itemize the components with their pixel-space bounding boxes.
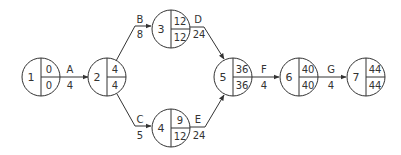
node-4-id: 4 (158, 122, 165, 135)
node-5-id: 5 (220, 71, 227, 84)
node-4: 4 9 12 (152, 109, 190, 147)
node-1-bottom-value: 0 (46, 80, 52, 91)
node-2: 2 4 4 (88, 58, 126, 96)
edge-f-label: F (261, 64, 267, 75)
node-2-id: 2 (94, 71, 101, 84)
node-5-bottom-value: 36 (236, 80, 249, 91)
node-6: 6 40 40 (280, 58, 318, 96)
edge-g-duration: 4 (328, 80, 334, 91)
edge-c-duration: 5 (137, 130, 143, 141)
edge-b-label: B (137, 14, 144, 25)
node-5-top-value: 36 (236, 64, 249, 75)
node-1: 1 0 0 (22, 58, 60, 96)
edge-a-duration: 4 (67, 80, 73, 91)
node-7-top-value: 44 (369, 64, 382, 75)
node-4-top-value: 9 (177, 115, 183, 126)
node-2-top-value: 4 (112, 64, 118, 75)
node-1-id: 1 (28, 71, 35, 84)
edge-c-arrow (117, 94, 151, 126)
edge-d-label: D (194, 14, 202, 25)
node-3: 3 12 12 (152, 10, 190, 48)
edge-b-arrow (116, 26, 151, 61)
network-diagram: A 4 B 8 C 5 D 24 E 24 F 4 G 4 1 0 0 2 4 … (0, 0, 401, 155)
edge-b-duration: 8 (137, 29, 143, 40)
edge-c-label: C (137, 114, 144, 125)
edge-g-label: G (327, 64, 335, 75)
node-6-bottom-value: 40 (302, 80, 315, 91)
node-7: 7 44 44 (347, 58, 385, 96)
node-3-top-value: 12 (174, 16, 187, 27)
node-6-id: 6 (286, 71, 293, 84)
edge-e-duration: 24 (193, 130, 206, 141)
node-3-bottom-value: 12 (174, 32, 187, 43)
edge-f-duration: 4 (261, 80, 267, 91)
node-1-top-value: 0 (46, 64, 52, 75)
node-6-top-value: 40 (302, 64, 315, 75)
node-3-id: 3 (158, 23, 165, 36)
node-7-bottom-value: 44 (369, 80, 382, 91)
edge-a-label: A (67, 64, 74, 75)
edge-e-label: E (195, 114, 201, 125)
edge-d-duration: 24 (193, 29, 206, 40)
node-7-id: 7 (353, 71, 360, 84)
node-5: 5 36 36 (214, 58, 252, 96)
node-4-bottom-value: 12 (174, 131, 187, 142)
node-2-bottom-value: 4 (112, 80, 118, 91)
